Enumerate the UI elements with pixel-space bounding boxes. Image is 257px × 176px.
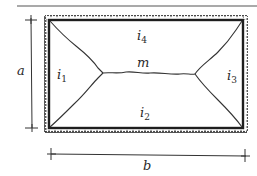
label-i4: i4: [137, 28, 147, 45]
label-m: m: [137, 55, 149, 70]
yield-line-top-left: [50, 21, 103, 73]
label-a: a: [17, 63, 25, 78]
yield-line-diagram: a b i1 i4 m i3 i2: [0, 0, 257, 176]
dimension-a: [25, 15, 38, 132]
label-i2: i2: [140, 105, 150, 122]
yield-line-top-right: [195, 21, 242, 74]
label-i1: i1: [57, 67, 67, 84]
yield-line-middle: [103, 72, 195, 74]
label-i3: i3: [227, 68, 237, 85]
label-b: b: [143, 158, 151, 173]
